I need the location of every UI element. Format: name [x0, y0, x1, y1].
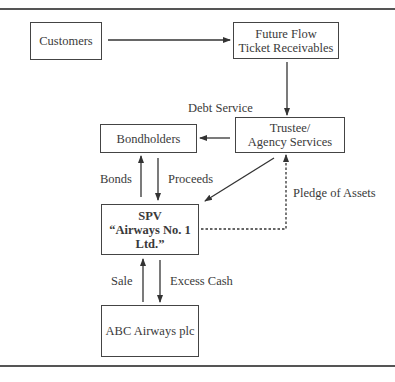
- node-bondholders-label: Bondholders: [117, 132, 181, 146]
- node-future-flow-line-2: Ticket Receivables: [238, 41, 333, 55]
- label-debt-service: Debt Service: [188, 101, 253, 116]
- arrow-pledge-of-assets: [201, 155, 286, 229]
- label-bonds: Bonds: [100, 172, 132, 187]
- node-abc-airways: ABC Airways plc: [101, 305, 199, 357]
- label-sale: Sale: [111, 274, 133, 289]
- arrow-trustee-to-spv: [205, 158, 274, 201]
- label-pledge-of-assets: Pledge of Assets: [293, 186, 376, 201]
- node-future-flow-receivables: Future Flow Ticket Receivables: [233, 22, 339, 59]
- node-trustee-line-1: Trustee/: [270, 121, 311, 135]
- node-abc-airways-label: ABC Airways plc: [106, 324, 195, 338]
- node-spv-line-1: SPV: [138, 209, 162, 223]
- node-spv-line-2: “Airways No. 1: [109, 223, 191, 237]
- node-customers-label: Customers: [39, 34, 92, 48]
- node-customers: Customers: [30, 22, 102, 60]
- node-future-flow-line-1: Future Flow: [255, 27, 316, 41]
- node-trustee: Trustee/ Agency Services: [235, 117, 345, 153]
- label-excess-cash: Excess Cash: [170, 274, 233, 289]
- node-bondholders: Bondholders: [100, 124, 197, 153]
- node-trustee-line-2: Agency Services: [248, 135, 332, 149]
- node-spv: SPV “Airways No. 1 Ltd.”: [101, 204, 199, 255]
- node-spv-line-3: Ltd.”: [136, 237, 165, 251]
- label-proceeds: Proceeds: [168, 172, 213, 187]
